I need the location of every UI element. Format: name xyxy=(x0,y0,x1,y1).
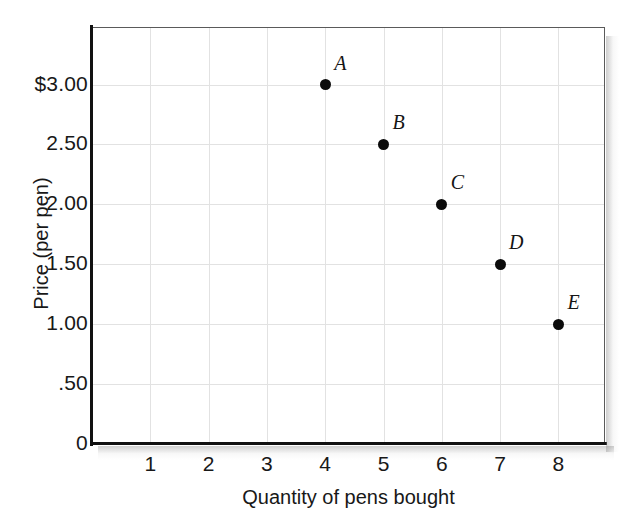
y-tick-label-2.00: 2.00 xyxy=(46,191,88,215)
x-tick-label-8: 8 xyxy=(538,452,578,476)
data-point-A xyxy=(320,79,331,90)
x-tick-label-3: 3 xyxy=(247,452,287,476)
data-point-D xyxy=(495,259,506,270)
data-point-E xyxy=(553,319,564,330)
y-tick-label-0: 0 xyxy=(76,431,88,455)
gridline-horizontal-$3.00 xyxy=(92,85,605,86)
data-point-label-D: D xyxy=(509,231,523,254)
data-point-label-C: C xyxy=(451,171,464,194)
plot-area xyxy=(92,27,605,444)
x-axis-line xyxy=(90,442,607,445)
x-tick-label-7: 7 xyxy=(480,452,520,476)
x-tick-label-2: 2 xyxy=(189,452,229,476)
gridline-vertical-7 xyxy=(500,27,501,444)
y-tick-label-1.00: 1.00 xyxy=(46,311,88,335)
data-point-B xyxy=(378,139,389,150)
gridline-vertical-6 xyxy=(442,27,443,444)
x-axis-title: Quantity of pens bought xyxy=(92,486,605,509)
demand-schedule-scatter-chart: ABCDE 0.501.001.502.002.50$3.00 12345678… xyxy=(0,0,639,522)
y-tick-label-2.50: 2.50 xyxy=(46,131,88,155)
gridline-vertical-3 xyxy=(267,27,268,444)
y-tick-label-.50: .50 xyxy=(58,371,88,395)
x-tick-label-6: 6 xyxy=(422,452,462,476)
data-point-label-B: B xyxy=(393,111,405,134)
x-tick-label-1: 1 xyxy=(130,452,170,476)
data-point-label-E: E xyxy=(567,291,579,314)
page-shadow-bottom xyxy=(98,446,614,460)
y-tick-label-1.50: 1.50 xyxy=(46,251,88,275)
x-tick-label-4: 4 xyxy=(305,452,345,476)
gridline-horizontal-1.50 xyxy=(92,264,605,265)
x-tick-label-5: 5 xyxy=(364,452,404,476)
gridline-horizontal-.50 xyxy=(92,384,605,385)
gridline-vertical-1 xyxy=(150,27,151,444)
gridline-horizontal-2.00 xyxy=(92,204,605,205)
gridline-vertical-2 xyxy=(209,27,210,444)
y-tick-label-3.00: $3.00 xyxy=(34,72,88,96)
y-axis-line xyxy=(90,25,93,446)
gridline-vertical-5 xyxy=(384,27,385,444)
data-point-label-A: A xyxy=(334,52,346,75)
gridline-horizontal-2.50 xyxy=(92,144,605,145)
y-axis-title: Price (per pen) xyxy=(30,114,53,374)
gridline-vertical-8 xyxy=(558,27,559,444)
gridline-horizontal-1.00 xyxy=(92,324,605,325)
page-shadow-right xyxy=(606,36,619,452)
